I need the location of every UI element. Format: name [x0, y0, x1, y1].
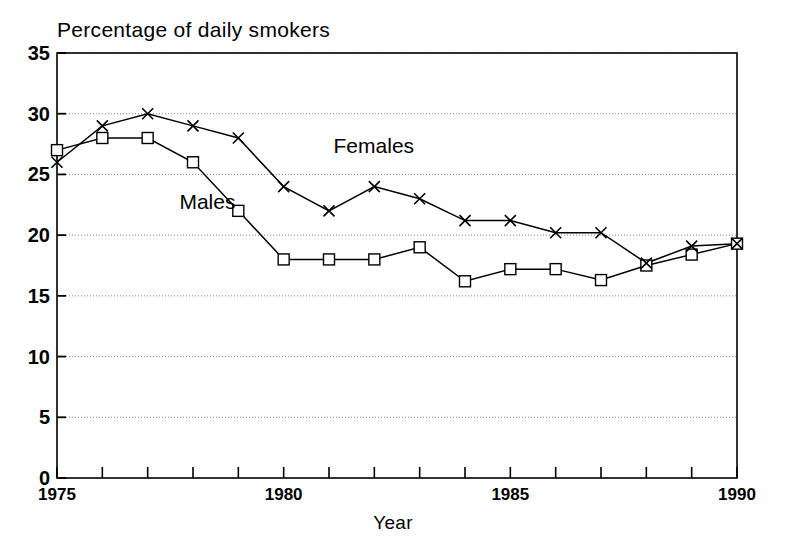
- marker-square: [188, 157, 199, 168]
- y-tick-label: 35: [6, 42, 50, 65]
- marker-square: [97, 133, 108, 144]
- marker-square: [324, 254, 335, 265]
- y-tick-label: 5: [6, 406, 50, 429]
- y-tick-label: 30: [6, 102, 50, 125]
- marker-square: [52, 145, 63, 156]
- marker-square: [142, 133, 153, 144]
- x-tick-label: 1985: [491, 485, 529, 505]
- marker-x: [142, 108, 153, 119]
- marker-x: [97, 120, 108, 131]
- marker-square: [278, 254, 289, 265]
- marker-square: [414, 242, 425, 253]
- marker-x: [414, 193, 425, 204]
- x-tick-label: 1990: [718, 485, 756, 505]
- y-tick-label: 25: [6, 163, 50, 186]
- x-tick-label: 1980: [265, 485, 303, 505]
- y-tick-label: 20: [6, 224, 50, 247]
- plot-area: [0, 0, 786, 555]
- series-annotation-males: Males: [179, 190, 235, 214]
- marker-x: [188, 120, 199, 131]
- x-axis-title: Year: [0, 512, 786, 534]
- gridlines-group: [57, 53, 737, 417]
- smoking-trend-chart: Percentage of daily smokers 051015202530…: [0, 0, 786, 555]
- marker-square: [596, 275, 607, 286]
- marker-square: [505, 264, 516, 275]
- marker-square: [641, 260, 652, 271]
- y-tick-label: 10: [6, 345, 50, 368]
- marker-square: [369, 254, 380, 265]
- series-line-males: [57, 138, 737, 281]
- marker-x: [233, 133, 244, 144]
- x-tick-label: 1975: [38, 485, 76, 505]
- marker-x: [369, 181, 380, 192]
- marker-square: [550, 264, 561, 275]
- series-annotation-females: Females: [334, 134, 415, 158]
- marker-square: [460, 276, 471, 287]
- marker-x: [324, 205, 335, 216]
- marker-x: [278, 181, 289, 192]
- y-tick-label: 15: [6, 284, 50, 307]
